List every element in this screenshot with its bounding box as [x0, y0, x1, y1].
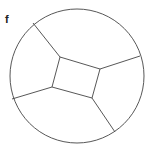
spoke-right [100, 56, 140, 69]
spoke-bottom-right [92, 98, 115, 132]
spoke-top-left [33, 23, 60, 57]
circle-partition-diagram [0, 0, 153, 147]
center-quadrilateral [52, 57, 100, 98]
spoke-left [12, 87, 52, 99]
outer-circle [10, 9, 144, 143]
